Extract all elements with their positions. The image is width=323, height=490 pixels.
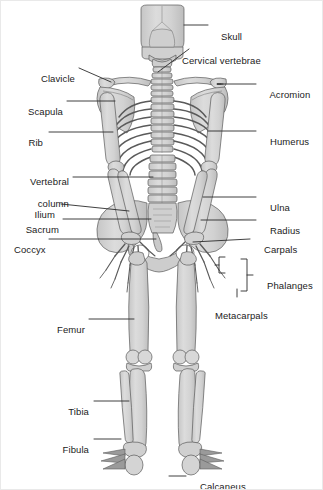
label-humerus: Humerus — [259, 125, 309, 158]
bracket-phalanges — [241, 259, 253, 291]
label-scapula: Scapula — [9, 95, 63, 128]
leader-clavicle — [79, 68, 111, 82]
label-rib: Rib — [9, 126, 43, 159]
skeleton-figure: Skull Cervical vertebrae Clavicle Acromi… — [0, 0, 323, 490]
leader-ilium — [61, 204, 129, 211]
leader-carpals — [193, 239, 250, 242]
label-metacarpals: Metacarpals — [204, 299, 268, 332]
label-clavicle: Clavicle — [17, 62, 75, 95]
label-tibia: Tibia — [55, 395, 89, 428]
label-femur: Femur — [39, 313, 85, 346]
label-carpals: Carpals — [253, 233, 297, 266]
label-acromion: Acromion — [259, 78, 310, 111]
label-fibula: Fibula — [51, 433, 89, 466]
label-coccyx: Coccyx — [3, 233, 45, 266]
label-cervical-vertebrae: Cervical vertebrae — [171, 44, 261, 77]
bracket-metacarpals — [215, 257, 237, 297]
label-phalanges: Phalanges — [256, 269, 313, 302]
label-calcaneus: Calcaneus — [189, 470, 246, 490]
